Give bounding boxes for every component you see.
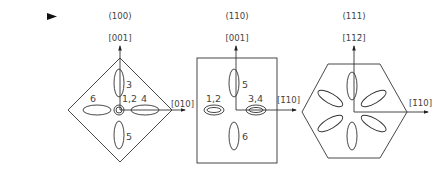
plane-label: (111) [343,10,366,21]
up-direction-label: [001] [226,32,249,43]
right-direction-label: [1̄10] [277,94,300,105]
plane-label: (100) [109,10,132,21]
ellipse-a [347,72,357,100]
ellipse-6 [229,122,239,150]
triangle-right-icon [47,13,57,20]
panel-110: (110) [001] [1̄10] 5 1,2 3,4 6 [197,10,300,163]
label-6: 6 [242,131,248,142]
label-3-4: 3,4 [248,93,263,104]
ellipse-6 [83,105,111,115]
right-direction-label: [010] [171,98,194,109]
plane-label: (110) [226,10,249,21]
label-5: 5 [242,79,248,90]
ellipse-5 [114,121,124,149]
ellipse-d [347,122,357,150]
up-direction-label: [001] [109,32,132,43]
label-3: 3 [126,79,132,90]
ellipse-e [316,112,345,135]
hexagon-outline [302,64,407,158]
crystal-projection-diagram: (100) [001] [010] 3 1,2 4 6 5 (110) [001… [0,0,432,173]
panel-111: (111) [112̄] [1̄10] [302,10,432,158]
label-1-2: 1,2 [206,93,221,104]
ellipse-1-2-inner [207,108,221,113]
panel-100: (100) [001] [010] 3 1,2 4 6 5 [68,10,194,162]
label-5: 5 [126,131,132,142]
right-direction-label: [1̄10] [409,97,432,108]
label-4: 4 [141,93,147,104]
ellipse-f [316,87,345,110]
label-1-2: 1,2 [122,93,137,104]
ellipse-5 [229,69,239,97]
ellipse-b [359,87,388,110]
label-6: 6 [90,93,96,104]
up-direction-label: [112̄] [343,32,366,43]
ellipse-c [359,112,388,135]
